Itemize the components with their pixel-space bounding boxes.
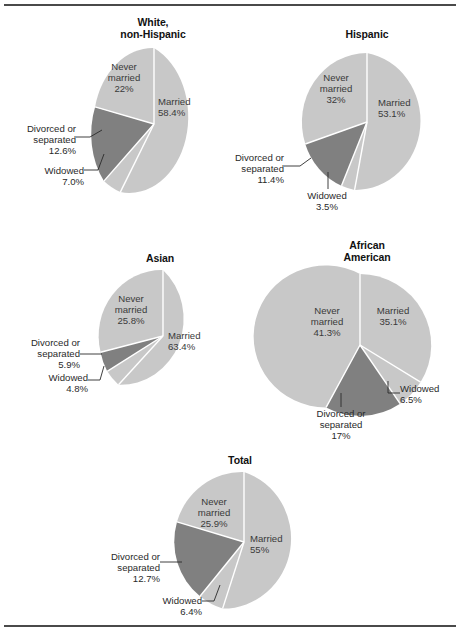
panel-title-white: White, non-Hispanic	[108, 17, 198, 40]
label-hispanic-widowed: Widowed 3.5%	[296, 190, 358, 212]
label-total-widowed: Widowed 6.4%	[140, 595, 202, 617]
label-asian-married: Married 63.4%	[168, 330, 224, 352]
leader-aa-divorced	[338, 393, 348, 411]
label-asian-never-married: Never married 25.8%	[104, 293, 158, 327]
label-asian-divorced: Divorced or separated 5.9%	[8, 337, 80, 371]
leader-asian-widowed	[88, 364, 114, 388]
leader-total-widowed	[202, 583, 228, 609]
label-total-never-married: Never married 25.9%	[187, 496, 241, 530]
panel-title-total: Total	[195, 455, 285, 467]
top-divider-rule	[4, 4, 456, 6]
leader-white-widowed	[84, 152, 114, 178]
leader-total-divorced	[160, 557, 190, 569]
pie-chart-figure: White, non-Hispanic Mar	[0, 0, 460, 637]
panel-title-african-american: African American	[322, 240, 412, 263]
label-total-divorced: Divorced or separated 12.7%	[88, 551, 160, 585]
label-asian-widowed: Widowed 4.8%	[26, 372, 88, 394]
label-white-divorced: Divorced or separated 12.6%	[4, 123, 76, 157]
label-aa-divorced: Divorced or separated 17%	[305, 408, 377, 442]
bottom-divider-rule	[4, 625, 456, 627]
leader-hispanic-divorced	[284, 157, 318, 175]
label-white-widowed: Widowed 7.0%	[22, 165, 84, 187]
label-aa-widowed: Widowed 6.5%	[400, 383, 460, 405]
label-hispanic-divorced: Divorced or separated 11.4%	[212, 152, 284, 186]
panel-title-hispanic: Hispanic	[322, 29, 412, 41]
label-aa-married: Married 35.1%	[365, 305, 421, 327]
label-white-never-married: Never married 22%	[99, 61, 149, 95]
leader-white-divorced	[76, 128, 110, 146]
label-aa-never-married: Never married 41.3%	[300, 305, 354, 339]
leader-asian-divorced	[80, 349, 110, 361]
label-hispanic-married: Married 53.1%	[378, 97, 434, 119]
label-hispanic-never-married: Never married 32%	[311, 72, 361, 106]
label-white-married: Married 58.4%	[158, 96, 214, 118]
leader-hispanic-widowed	[326, 172, 336, 192]
panel-title-asian: Asian	[115, 253, 205, 265]
leader-aa-widowed	[386, 381, 404, 399]
label-total-married: Married 55%	[250, 533, 306, 555]
